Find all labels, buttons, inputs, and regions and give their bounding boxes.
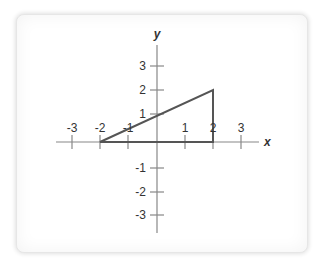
- y-tick-label: -3: [135, 208, 146, 222]
- y-tick-label: -1: [135, 161, 146, 175]
- x-tick-label: 1: [182, 121, 189, 135]
- x-tick-label: -2: [95, 121, 106, 135]
- y-tick-label: 1: [139, 107, 146, 121]
- y-axis-label: y: [153, 27, 162, 41]
- x-tick-label: -3: [67, 121, 78, 135]
- x-axis-label: x: [263, 135, 272, 149]
- x-tick-label: -1: [123, 121, 134, 135]
- y-tick-label: 3: [139, 59, 146, 73]
- coordinate-plane: -3 -2 -1 1 2 3 3 2 1 -1 -2 -3 x y: [0, 0, 324, 265]
- x-tick-label: 2: [210, 121, 217, 135]
- y-tick-label: 2: [139, 83, 146, 97]
- x-tick-label: 3: [238, 121, 245, 135]
- y-tick-label: -2: [135, 185, 146, 199]
